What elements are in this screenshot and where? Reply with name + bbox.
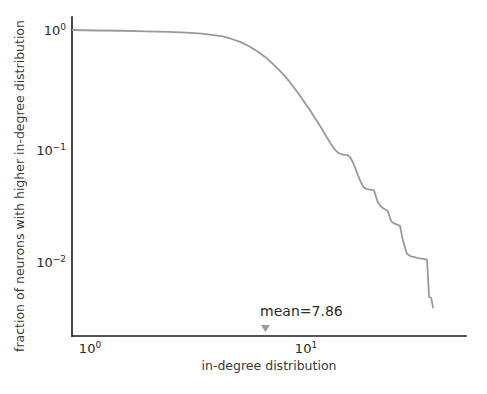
mean-annotation-label: mean=7.86 bbox=[260, 303, 343, 319]
x-tick-exponent-1e0: 0 bbox=[95, 340, 101, 350]
y-tick-mantissa-1e-2: 10 bbox=[36, 255, 53, 270]
x-tick-exponent-1e1: 1 bbox=[311, 340, 317, 350]
x-tick-mantissa-1e0: 10 bbox=[79, 341, 96, 356]
y-tick-exponent-1e-2: −2 bbox=[53, 254, 66, 264]
y-tick-mantissa-1e-1: 10 bbox=[36, 143, 53, 158]
x-axis-label: in-degree distribution bbox=[202, 358, 337, 373]
y-tick-mantissa-1e0: 10 bbox=[44, 23, 61, 38]
figure-background bbox=[0, 0, 487, 394]
x-tick-mantissa-1e1: 10 bbox=[295, 341, 312, 356]
y-tick-exponent-1e0: 0 bbox=[60, 22, 66, 32]
indegree-ccdf-chart: fraction of neurons with higher in-degre… bbox=[0, 0, 487, 394]
y-tick-exponent-1e-1: −1 bbox=[53, 142, 66, 152]
y-axis-label: fraction of neurons with higher in-degre… bbox=[12, 20, 27, 352]
